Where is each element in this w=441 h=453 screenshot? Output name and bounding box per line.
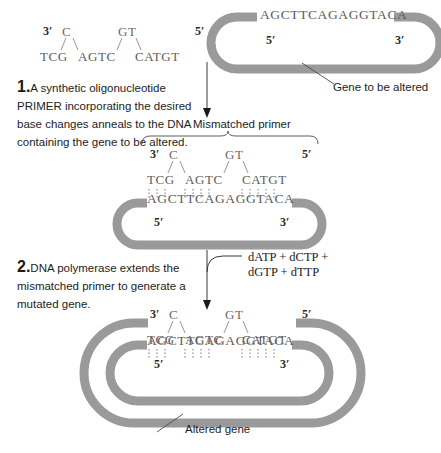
bottom-template-loop: AGCTTCAGAGGTACA 5′ 3′ bbox=[112, 340, 327, 406]
top-primer-5prime-label: 5′ bbox=[195, 25, 204, 37]
middle-primer-segment-1: TCG bbox=[147, 173, 175, 186]
step-2-block: 2.DNA polymerase extends the mismatched … bbox=[17, 258, 202, 312]
gene-loop-3prime-label: 3′ bbox=[395, 34, 404, 46]
bottom-template-3prime-label: 3′ bbox=[280, 358, 289, 370]
mismatched-primer-label: Mismatched primer bbox=[193, 119, 291, 131]
gene-to-be-altered-label: Gene to be altered bbox=[333, 82, 428, 94]
gene-loop-5prime-label: 5′ bbox=[266, 34, 275, 46]
altered-gene-label: Altered gene bbox=[185, 424, 250, 436]
middle-template-3prime-label: 3′ bbox=[280, 216, 289, 228]
figure-canvas: C GT 3′ 5′ TCG AGTC CATGT + AGCTTCAGAGGT… bbox=[0, 0, 441, 453]
middle-template-sequence: AGCTTCAGAGGTACA bbox=[147, 192, 294, 206]
top-primer-segment-2: AGTC bbox=[78, 50, 116, 63]
gene-loop-sequence: AGCTTCAGAGGTACA bbox=[260, 8, 407, 22]
bottom-inner-loop-shape bbox=[112, 340, 327, 406]
step-1-number: 1. bbox=[17, 78, 30, 95]
step-1-arrow bbox=[200, 62, 214, 120]
middle-primer-segment-3: CATGT bbox=[242, 173, 287, 186]
step-2-text: DNA polymerase extends the mismatched pr… bbox=[17, 262, 186, 310]
mismatched-primer-brace bbox=[140, 132, 320, 146]
middle-template-loop: AGCTTCAGAGGTACA 5′ 3′ bbox=[112, 198, 327, 250]
step-2-number: 2. bbox=[17, 258, 30, 275]
top-primer-segment-1: TCG bbox=[40, 50, 68, 63]
bottom-template-5prime-label: 5′ bbox=[154, 358, 163, 370]
reagents-label: dATP + dCTP + dGTP + dTTP bbox=[248, 250, 328, 280]
middle-primer-segment-2: AGTC bbox=[185, 173, 223, 186]
bottom-template-sequence: AGCTTCAGAGGTACA bbox=[147, 334, 294, 348]
top-primer-3prime-label: 3′ bbox=[43, 25, 52, 37]
middle-primer-5prime-label: 5′ bbox=[302, 148, 311, 160]
middle-template-5prime-label: 5′ bbox=[154, 216, 163, 228]
middle-primer-3prime-label: 3′ bbox=[150, 148, 159, 160]
top-primer-segment-3: CATGT bbox=[135, 50, 180, 63]
